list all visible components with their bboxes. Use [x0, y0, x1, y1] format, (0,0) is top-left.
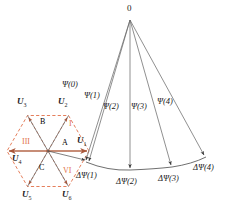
- zone-label-c: C: [39, 164, 44, 172]
- sector-label-vi: VI: [63, 167, 71, 175]
- flux-label-psi-4: Ψ(4): [157, 97, 173, 106]
- center-to-arc-connector: [48, 151, 85, 160]
- flux-label-psi-1: Ψ(1): [84, 91, 100, 100]
- delta-flux-label-3: ΔΨ(3): [158, 174, 179, 183]
- vertex-u6-sub: 6: [69, 195, 72, 201]
- zone-label-b: B: [40, 118, 45, 126]
- vertex-label-u3: U3: [17, 97, 27, 108]
- flux-fan-lines: [86, 20, 204, 168]
- flux-line-psi-3: [130, 20, 171, 165]
- sector-label-iii: III: [22, 138, 30, 146]
- vertex-u2-sub: 2: [65, 102, 68, 108]
- edge-u5-center: [28, 151, 49, 187]
- sector-label-i: I: [69, 120, 72, 128]
- zone-label-a: A: [62, 139, 68, 147]
- flux-trajectory-arc: [86, 157, 206, 170]
- figure-canvas: 0 U1 U2 U3 U4 U5 U6 A B C I III VI Ψ(0) …: [0, 0, 235, 210]
- vertex-label-u2: U2: [58, 97, 68, 108]
- delta-flux-label-4: ΔΨ(4): [193, 163, 214, 172]
- delta-flux-label-1: ΔΨ(1): [76, 171, 97, 180]
- flux-label-psi-3: Ψ(3): [131, 102, 147, 111]
- vertex-u4-sub: 4: [19, 159, 22, 165]
- vertex-u5-sub: 5: [29, 195, 32, 201]
- vertex-label-u5: U5: [22, 190, 32, 201]
- vertex-u3-sub: 3: [24, 102, 27, 108]
- vertex-u1-sub: 1: [84, 141, 87, 147]
- vertex-label-u6: U6: [62, 190, 72, 201]
- vertex-label-u4: U4: [12, 154, 22, 165]
- delta-flux-label-2: ΔΨ(2): [116, 177, 137, 186]
- apex-label: 0: [127, 4, 132, 13]
- flux-line-psi-4: [130, 20, 204, 155]
- flux-label-psi-0: Ψ(0): [62, 80, 78, 89]
- vertex-label-u1: U1: [77, 136, 87, 147]
- flux-label-psi-2: Ψ(2): [103, 102, 119, 111]
